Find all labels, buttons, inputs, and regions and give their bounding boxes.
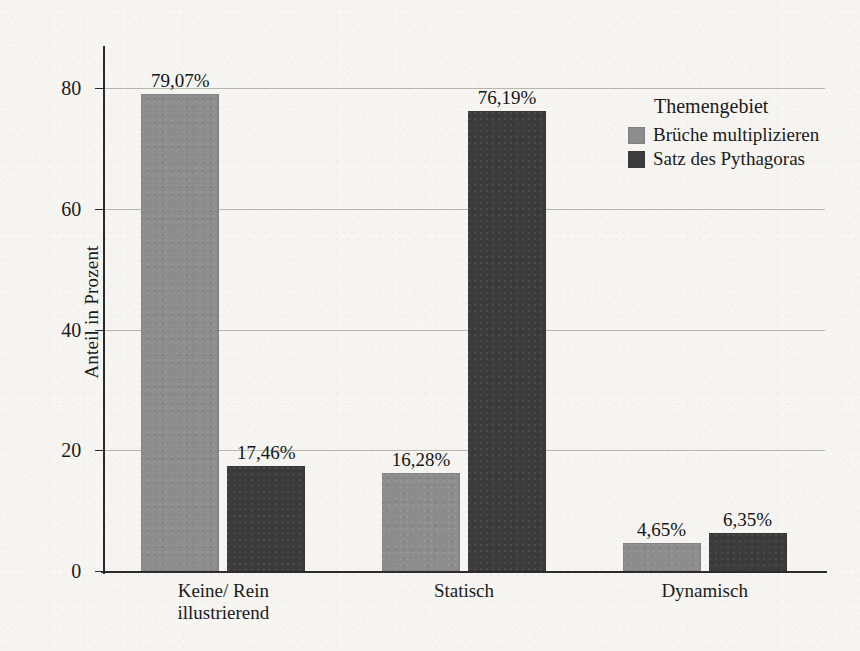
tick-mark-80 [95,88,103,89]
y-tick-label-40: 40 [61,320,81,340]
bar-value-label-2-1: 6,35% [723,510,772,529]
legend-label-series-1: Brüche multiplizieren [653,125,819,146]
tick-mark-20 [95,450,103,451]
y-axis-label: Anteil in Prozent [81,245,103,378]
bar-0-0[interactable]: 79,07% [141,94,219,571]
bar-2-0[interactable]: 4,65% [623,543,701,571]
bar-group-1: 16,28%76,19% [344,52,585,571]
legend-label-series-2: Satz des Pythagoras [653,149,805,170]
bar-slot-1-0: 16,28% [382,52,460,571]
bar-value-label-0-0: 79,07% [151,71,210,90]
legend-item-bruche-multiplizieren[interactable]: Brüche multiplizieren [628,125,858,146]
bar-value-label-0-1: 17,46% [237,443,296,462]
y-tick-label-0: 0 [71,561,81,581]
bar-slot-0-0: 79,07% [141,52,219,571]
y-axis-line [103,46,105,574]
x-category-label-1: Statisch [344,580,585,602]
bar-1-1[interactable]: 76,19% [468,111,546,571]
legend: Themengebiet Brüche multiplizieren Satz … [628,96,858,173]
bar-1-0[interactable]: 16,28% [382,473,460,571]
x-category-label-2: Dynamisch [584,580,825,602]
bar-value-label-1-0: 16,28% [392,450,451,469]
bar-value-label-1-1: 76,19% [478,88,537,107]
legend-item-satz-des-pythagoras[interactable]: Satz des Pythagoras [628,149,858,170]
legend-title: Themengebiet [654,96,858,116]
bar-value-label-2-0: 4,65% [637,520,686,539]
bar-slot-1-1: 76,19% [468,52,546,571]
legend-swatch-series-1 [628,127,645,144]
tick-mark-60 [95,209,103,210]
y-tick-label-60: 60 [61,199,81,219]
bar-group-0: 79,07%17,46% [103,52,344,571]
legend-swatch-series-2 [628,151,645,168]
x-axis-line [101,571,827,573]
y-tick-label-20: 20 [61,440,81,460]
x-category-label-0: Keine/ Rein illustrierend [103,580,344,624]
bar-0-1[interactable]: 17,46% [227,466,305,571]
y-tick-label-80: 80 [61,78,81,98]
bar-chart: Anteil in Prozent 020406080 79,07%17,46%… [0,0,860,651]
tick-mark-40 [95,330,103,331]
bar-slot-0-1: 17,46% [227,52,305,571]
bar-2-1[interactable]: 6,35% [709,533,787,571]
